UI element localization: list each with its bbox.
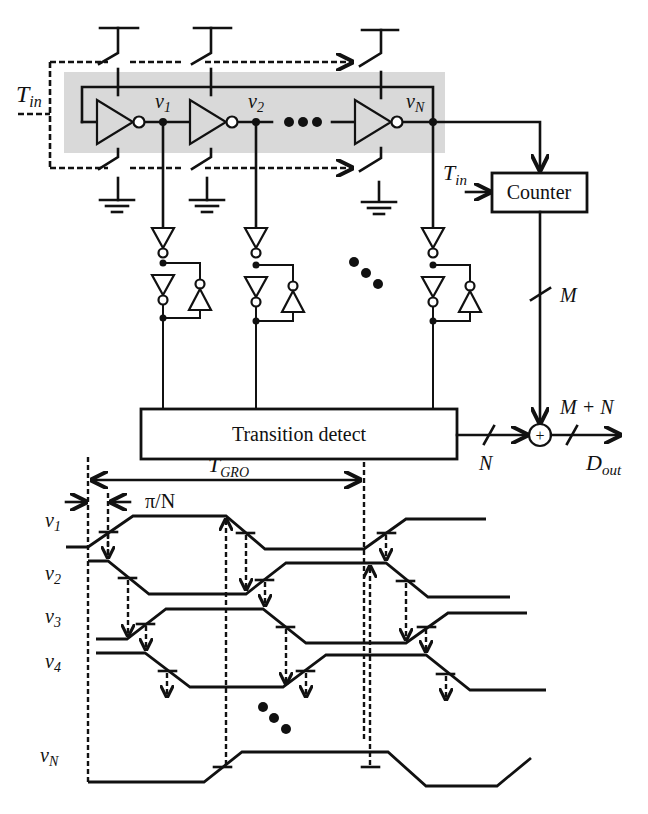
signal-label-v2: v2 bbox=[45, 562, 61, 587]
gated-ring-oscillator-tdc-diagram: Tin bbox=[0, 0, 648, 814]
signal-ellipsis-dots bbox=[258, 702, 291, 734]
waveform-v3 bbox=[96, 609, 527, 643]
phase-step-label: π/N bbox=[145, 490, 175, 512]
bus-label-m: M bbox=[559, 284, 578, 306]
tin-input-label: Tin bbox=[16, 81, 42, 110]
signal-label-vn: vN bbox=[40, 744, 59, 769]
latch-column-1 bbox=[152, 228, 211, 409]
dout-label: Dout bbox=[585, 450, 622, 478]
ring-oscillator-band bbox=[64, 72, 445, 153]
signal-label-v1: v1 bbox=[45, 509, 61, 534]
bus-label-m-plus-n: M + N bbox=[559, 396, 615, 418]
latch-ellipsis-dots bbox=[349, 257, 383, 289]
bus-label-n: N bbox=[478, 452, 494, 474]
waveform-v2 bbox=[88, 561, 510, 597]
latch-column-2 bbox=[245, 228, 304, 409]
waveform-vn bbox=[88, 752, 531, 786]
latch-column-n bbox=[422, 228, 481, 409]
threshold-crossing-ticks bbox=[100, 532, 454, 767]
circuit-schematic: Tin bbox=[16, 28, 622, 478]
counter-tin-label: Tin bbox=[443, 160, 467, 188]
node-vn bbox=[429, 118, 437, 126]
ring-ellipsis-dots bbox=[284, 117, 322, 127]
signal-label-v3: v3 bbox=[45, 605, 61, 630]
counter-label: Counter bbox=[507, 181, 572, 203]
transition-detect-label: Transition detect bbox=[232, 423, 367, 445]
waveform-v1 bbox=[66, 516, 486, 549]
timing-diagram: TGRO π/N v1 v2 v3 v4 vN bbox=[40, 452, 546, 786]
node-v1 bbox=[159, 118, 167, 126]
adder-symbol: + bbox=[535, 427, 544, 444]
node-v2 bbox=[252, 118, 260, 126]
signal-label-v4: v4 bbox=[45, 650, 61, 675]
